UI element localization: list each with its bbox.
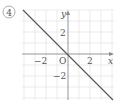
x-axis-label: x (108, 56, 113, 66)
origin-label: O (59, 56, 66, 66)
coordinate-graph: 4 y (0, 0, 119, 104)
y-tick-neg2: −2 (53, 71, 66, 81)
x-tick-2: 2 (87, 56, 93, 66)
problem-number-badge: 4 (3, 6, 15, 18)
x-tick-neg2: −2 (34, 56, 47, 66)
y-axis-label: y (60, 9, 67, 19)
y-tick-2: 2 (60, 28, 66, 38)
problem-number: 4 (6, 8, 12, 18)
y-axis-arrow-icon (66, 10, 70, 15)
